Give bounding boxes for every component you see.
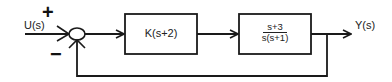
output-label: Y(s): [355, 19, 375, 31]
summing-junction: [69, 28, 85, 40]
plant-denominator: s(s+1): [258, 33, 293, 43]
block-diagram-canvas: [0, 0, 392, 82]
controller-transfer-function: K(s+2): [125, 27, 197, 39]
plant-transfer-function: s+3 s(s+1): [239, 22, 311, 43]
minus-sign: −: [50, 43, 62, 66]
plus-sign: +: [42, 1, 54, 24]
